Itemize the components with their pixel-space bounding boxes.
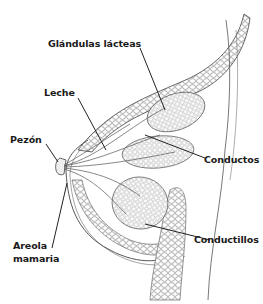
breast-anatomy-diagram: Glándulas lácteas Leche Pezón Conductos … <box>0 0 263 304</box>
label-milk: Leche <box>44 87 75 99</box>
label-milk-glands: Glándulas lácteas <box>48 38 141 50</box>
label-ductules: Conductillos <box>194 234 259 246</box>
label-nipple: Pezón <box>10 134 42 146</box>
label-areola-line1: Areola <box>13 240 47 252</box>
label-ducts: Conductos <box>204 154 259 166</box>
gland-lobe-middle <box>121 133 196 171</box>
gland-lobe-upper <box>142 85 211 139</box>
label-areola-line2: mamaria <box>13 253 59 265</box>
